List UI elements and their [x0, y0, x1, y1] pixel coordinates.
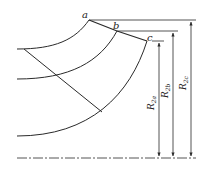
label-r2c: R2c	[178, 75, 189, 91]
curve-c	[17, 41, 147, 136]
svg-text:R2c: R2c	[178, 75, 189, 91]
label-r2b: R2b	[160, 83, 171, 99]
inlet-edge	[24, 49, 102, 112]
svg-text:R2a: R2a	[146, 95, 157, 111]
curve-a	[17, 20, 89, 49]
impeller-diagram: a b c R2a R2b R2c	[0, 0, 208, 186]
point-label-c: c	[147, 32, 153, 43]
label-r2a: R2a	[146, 95, 157, 111]
svg-text:R2b: R2b	[160, 83, 171, 99]
point-label-b: b	[113, 20, 119, 31]
point-label-a: a	[82, 9, 88, 20]
